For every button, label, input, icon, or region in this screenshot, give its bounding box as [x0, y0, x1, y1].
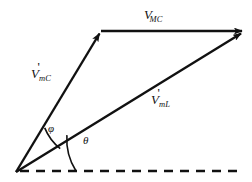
- vector-label-vml-prime-mark: ': [158, 85, 160, 100]
- vector-label-vmc-prime-mark: ': [38, 59, 40, 74]
- angle-label-theta: θ: [83, 135, 88, 146]
- vector-vmc-prime-line: [16, 34, 100, 173]
- vector-diagram-canvas: [0, 0, 252, 182]
- vector-diagram-figure: VMC V'mC V'mL φ θ: [0, 0, 252, 182]
- angle-label-phi: φ: [48, 123, 54, 134]
- vector-label-vml-prime: V'mL: [151, 87, 172, 107]
- vector-label-vml-prime-sub: mL: [159, 99, 170, 109]
- vector-label-vmc-prime-sub: mC: [39, 73, 51, 83]
- vector-label-vmc-total-sub: MC: [150, 14, 163, 24]
- vector-label-vmc-prime: V'mC: [31, 61, 53, 81]
- vector-label-vmc-total: VMC: [144, 6, 165, 22]
- vector-vml-prime-line: [16, 34, 241, 173]
